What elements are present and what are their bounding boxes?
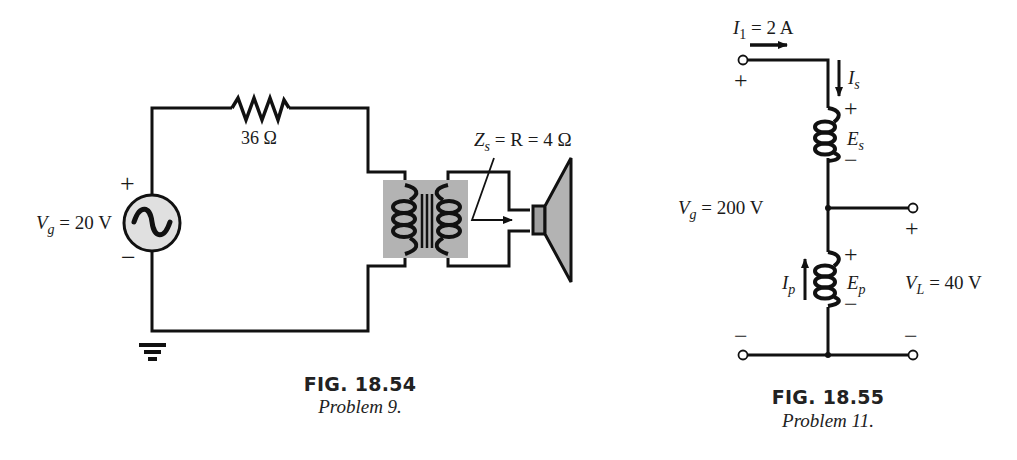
resistor-icon bbox=[232, 98, 289, 120]
figure-18-55-caption: Problem 11. bbox=[758, 410, 898, 432]
figure-18-54-label: FIG. 18.54 bbox=[300, 373, 420, 395]
series-coil-icon bbox=[815, 108, 839, 161]
impedance-pointer-arrow bbox=[472, 158, 512, 220]
figure-18-54-caption: Problem 9. bbox=[290, 396, 430, 418]
common-current-label: Ip bbox=[781, 272, 795, 297]
common-coil-icon bbox=[815, 252, 839, 306]
input-terminal-negative[interactable] bbox=[739, 351, 748, 360]
load-impedance-label: Zs = R = 4 Ω bbox=[474, 129, 572, 154]
resistor-value-label: 36 Ω bbox=[241, 128, 277, 148]
source-plus-sign: + bbox=[120, 169, 135, 198]
output-minus-sign: − bbox=[904, 323, 918, 349]
textbook-figure-page: 36 Ω + − Vg = 20 V bbox=[0, 0, 1017, 460]
input-minus-sign: − bbox=[734, 323, 748, 349]
series-current-label: Is bbox=[847, 67, 860, 92]
input-plus-sign: + bbox=[734, 67, 748, 93]
series-coil-plus: + bbox=[844, 95, 858, 121]
output-terminal-positive[interactable] bbox=[909, 204, 918, 213]
iron-core-transformer-icon bbox=[383, 180, 468, 258]
output-terminal-negative[interactable] bbox=[909, 351, 918, 360]
series-coil-minus: − bbox=[844, 147, 858, 173]
input-terminal-positive[interactable] bbox=[739, 56, 748, 65]
common-coil-minus: − bbox=[844, 291, 858, 317]
source-voltage-label: Vg = 20 V bbox=[36, 212, 112, 237]
figure-18-55-label: FIG. 18.55 bbox=[768, 386, 888, 408]
speaker-icon bbox=[533, 158, 571, 282]
output-plus-sign: + bbox=[905, 215, 919, 241]
common-coil-plus: + bbox=[844, 241, 858, 267]
junction-dot-top bbox=[825, 205, 831, 211]
figure-18-54-circuit: 36 Ω + − Vg = 20 V bbox=[36, 98, 572, 361]
figure-18-55-circuit: I1 = 2 A + − + − Is + Es − Vg = 200 V + … bbox=[678, 17, 982, 360]
load-voltage-label: VL = 40 V bbox=[905, 272, 982, 297]
ground-icon bbox=[139, 343, 166, 361]
junction-dot-bottom bbox=[825, 352, 831, 358]
source-minus-sign: − bbox=[121, 243, 136, 272]
input-current-label: I1 = 2 A bbox=[732, 17, 794, 42]
source-voltage-label: Vg = 200 V bbox=[678, 197, 764, 222]
